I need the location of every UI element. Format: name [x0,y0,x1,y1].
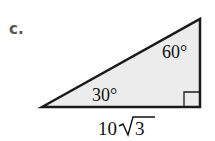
angle-60-label: 60° [162,42,187,62]
side-radicand: 3 [135,118,145,139]
bottom-side-label: 10 3 [98,117,155,139]
triangle-diagram: 30° 60° 10 3 [0,0,215,141]
right-triangle [42,19,200,107]
angle-30-label: 30° [92,85,117,105]
side-coefficient: 10 [98,118,117,139]
